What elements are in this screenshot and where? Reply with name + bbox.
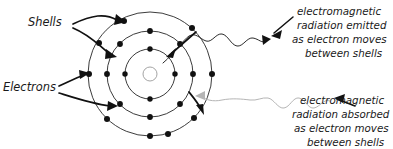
electron-dot [122,71,127,76]
absorbed-text-block: electromagnetic radiation absorbed as el… [292,94,390,148]
electron-transition-arrowhead-emit [166,48,176,58]
emitted-text-line-4: between shells [305,47,383,59]
absorbed-text-line-3: as electron moves [294,122,389,134]
electrons-leader-line-2 [59,93,110,106]
absorbed-wave-arrowhead [195,91,205,100]
electron-dot [147,28,153,34]
electron-dot [190,71,196,77]
emitted-text-line-3: as electron moves [292,33,387,45]
shells-callout: Shells [28,14,126,59]
shells-arrowhead-middle [105,49,117,59]
atom-shell-diagram: Shells Electrons [0,0,393,149]
electron-dot [165,131,171,137]
electrons-middle-shell [104,28,196,120]
electron-dot [147,114,153,120]
electron-dot [147,46,152,51]
emitted-text-leader [274,17,293,33]
electron-dot [177,101,183,107]
electrons-outer-shell [86,18,215,139]
electrons-arrowhead-2 [107,101,118,111]
shells-label: Shells [28,15,62,29]
emitted-text-line-2: radiation emitted [297,19,387,31]
shells-leader-line-outer [73,16,117,24]
electron-dot [209,71,215,77]
electron-dot [172,71,177,76]
emitted-radiation-group [163,17,293,63]
atom-group [86,12,215,139]
electrons-label: Electrons [3,80,56,94]
absorbed-text-line-1: electromagnetic [300,94,384,106]
electron-dot [117,101,123,107]
electron-transition-arrowhead-absorb [196,104,204,115]
electron-transition-arrow-emit [172,32,196,53]
emitted-text-line-1: electromagnetic [297,5,381,17]
electron-dot [189,25,195,31]
electron-dot [147,96,152,101]
emitted-wave-arrowhead [262,35,271,45]
emitted-text-block: electromagnetic radiation emitted as ele… [292,5,387,59]
electron-dot [191,115,197,121]
electron-dot [104,71,110,77]
electron-dot [117,41,123,47]
electron-dot [147,133,153,139]
nucleus [143,67,157,81]
electron-dot [104,116,110,122]
electrons-callout: Electrons [3,70,118,111]
absorbed-text-line-2: radiation absorbed [292,108,390,120]
absorbed-text-line-4: between shells [307,136,385,148]
